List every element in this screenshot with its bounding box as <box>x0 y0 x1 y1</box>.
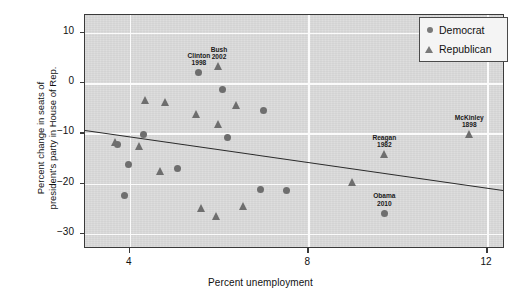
point-annotation: Bush2002 <box>189 46 249 61</box>
x-tick-label: 12 <box>471 256 501 267</box>
data-point-democrat[interactable] <box>260 107 267 114</box>
point-annotation-year: 2010 <box>354 200 414 207</box>
legend[interactable]: Democrat Republican <box>419 17 508 62</box>
x-tick-label: 8 <box>292 256 322 267</box>
data-point-republican[interactable] <box>348 178 356 186</box>
data-point-democrat[interactable] <box>257 186 264 193</box>
x-axis-title: Percent unemployment <box>0 277 521 288</box>
data-point-democrat[interactable] <box>219 86 226 93</box>
data-point-republican[interactable] <box>161 98 169 106</box>
x-tick-mark <box>307 248 308 253</box>
data-point-republican[interactable] <box>192 110 200 118</box>
data-point-democrat[interactable] <box>283 187 290 194</box>
y-axis-title-line2: president's party in House of Rep. <box>47 23 59 253</box>
gridline-vertical <box>308 15 309 247</box>
point-annotation-name: McKinley <box>439 114 499 121</box>
x-tick-mark <box>486 248 487 253</box>
y-tick-label: −10 <box>40 125 74 136</box>
data-point-republican[interactable] <box>380 150 388 158</box>
data-point-republican[interactable] <box>197 204 205 212</box>
data-point-democrat[interactable] <box>140 131 147 138</box>
y-tick-label: 0 <box>40 75 74 86</box>
triangle-marker-icon <box>425 46 433 53</box>
gridline-vertical <box>130 15 131 247</box>
trend-line <box>85 130 504 191</box>
data-point-republican[interactable] <box>135 142 143 150</box>
data-point-republican[interactable] <box>239 202 247 210</box>
point-annotation-year: 2002 <box>189 53 249 60</box>
point-annotation-year: 1982 <box>354 141 414 148</box>
data-point-democrat[interactable] <box>195 69 202 76</box>
x-tick-label: 4 <box>114 256 144 267</box>
y-axis-title: Percent change in seats of president's p… <box>35 23 59 253</box>
data-point-democrat[interactable] <box>381 210 388 217</box>
point-annotation: Obama2010 <box>354 192 414 207</box>
point-annotation-name: Reagan <box>354 134 414 141</box>
gridline-horizontal <box>85 184 503 186</box>
legend-label-republican: Republican <box>439 43 492 55</box>
legend-label-democrat: Democrat <box>439 24 485 36</box>
data-point-democrat[interactable] <box>174 165 181 172</box>
y-axis-title-line1: Percent change in seats of <box>35 23 47 253</box>
data-point-republican[interactable] <box>212 212 220 220</box>
data-point-republican[interactable] <box>232 101 240 109</box>
point-annotation: Reagan1982 <box>354 134 414 149</box>
data-point-republican[interactable] <box>141 96 149 104</box>
gridline-horizontal <box>85 234 503 236</box>
data-point-democrat[interactable] <box>224 134 231 141</box>
data-point-republican[interactable] <box>111 138 119 146</box>
legend-item-democrat[interactable]: Democrat <box>425 21 485 39</box>
y-tick-label: −30 <box>40 226 74 237</box>
data-point-republican[interactable] <box>465 130 473 138</box>
scatter-plot-figure: Percent change in seats of president's p… <box>0 0 521 300</box>
point-annotation-name: Bush <box>189 46 249 53</box>
point-annotation: McKinley1898 <box>439 114 499 129</box>
x-tick-mark <box>129 248 130 253</box>
circle-marker-icon <box>427 27 433 33</box>
data-point-republican[interactable] <box>156 167 164 175</box>
legend-item-republican[interactable]: Republican <box>425 40 492 58</box>
gridline-horizontal <box>85 83 503 85</box>
data-point-democrat[interactable] <box>125 161 132 168</box>
data-point-democrat[interactable] <box>121 192 128 199</box>
point-annotation-year: 1898 <box>439 121 499 128</box>
y-tick-label: 10 <box>40 25 74 36</box>
data-point-republican[interactable] <box>214 120 222 128</box>
gridline-horizontal <box>85 133 503 135</box>
point-annotation-name: Obama <box>354 192 414 199</box>
y-tick-label: −20 <box>40 176 74 187</box>
